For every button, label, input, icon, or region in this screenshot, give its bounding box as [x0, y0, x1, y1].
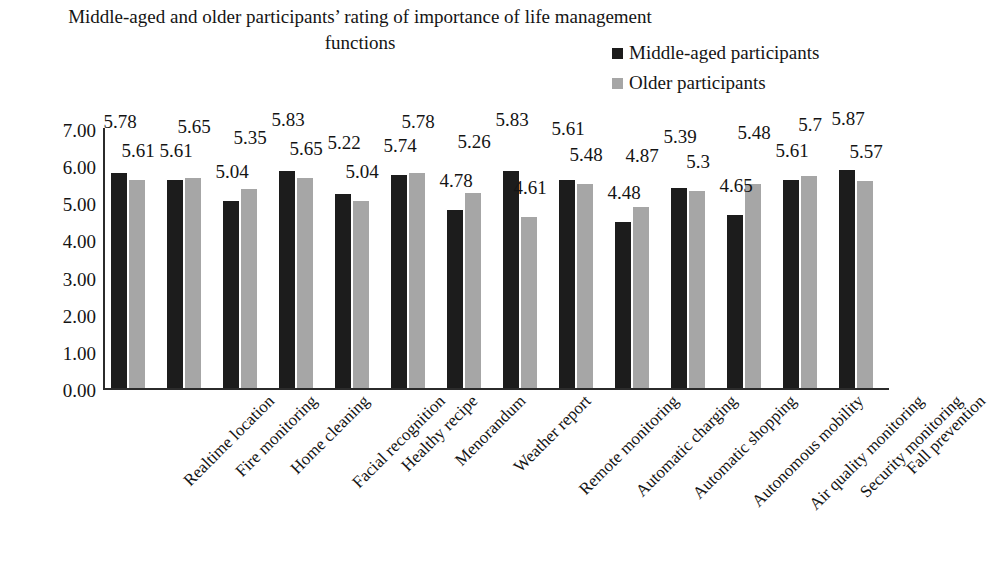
bar-group: 5.835.65 [279, 128, 315, 388]
x-axis-label: Remote monitoring [576, 392, 682, 498]
bar-value-label-older: 5.61 [117, 141, 159, 160]
bar-value-label-older: 5.65 [173, 117, 215, 136]
y-tick-label: 6.00 [40, 158, 96, 177]
bar-group: 4.484.87 [615, 128, 651, 388]
bar-older [577, 184, 593, 388]
bar-middle-aged [391, 175, 407, 388]
bar-older [633, 207, 649, 388]
bar-group: 5.615.65 [167, 128, 203, 388]
bar-group: 5.785.61 [111, 128, 147, 388]
y-tick-label: 5.00 [40, 195, 96, 214]
bar-value-label-middle-aged: 5.04 [211, 162, 253, 181]
bar-group: 5.834.61 [503, 128, 539, 388]
bar-value-label-middle-aged: 4.78 [435, 171, 477, 190]
bar-group: 5.875.57 [839, 128, 875, 388]
plot-area: 5.785.615.615.655.045.355.835.655.225.04… [103, 128, 889, 390]
bar-older [297, 178, 313, 388]
bar-middle-aged [447, 210, 463, 388]
bar-value-label-older: 5.57 [845, 142, 887, 161]
bar-value-label-middle-aged: 5.83 [267, 110, 309, 129]
bar-value-label-older: 5.3 [677, 152, 719, 171]
y-axis-line [103, 128, 105, 390]
bar-middle-aged [279, 171, 295, 388]
bar-middle-aged [727, 215, 743, 388]
y-axis-tick-labels: 7.006.005.004.003.002.001.000.00 [36, 128, 96, 390]
x-axis-category-labels: Realtime locationFire monitoringHome cle… [103, 392, 933, 582]
bar-value-label-older: 5.65 [285, 139, 327, 158]
bar-value-label-older: 5.35 [229, 128, 271, 147]
legend-item-older: Older participants [612, 68, 819, 98]
bar-value-label-older: 5.78 [397, 112, 439, 131]
legend-item-middle-aged: Middle-aged participants [612, 38, 819, 68]
bar-older [241, 189, 257, 388]
bar-value-label-middle-aged: 5.22 [323, 133, 365, 152]
y-tick-label: 0.00 [40, 381, 96, 400]
bar-older [353, 201, 369, 388]
bar-older [745, 184, 761, 388]
bar-value-label-middle-aged: 5.61 [771, 141, 813, 160]
bar-value-label-middle-aged: 4.65 [715, 176, 757, 195]
bar-value-label-middle-aged: 5.74 [379, 136, 421, 155]
bar-value-label-older: 5.26 [453, 132, 495, 151]
bar-group: 5.225.04 [335, 128, 371, 388]
bar-older [129, 180, 145, 388]
bar-group: 5.745.78 [391, 128, 427, 388]
bar-middle-aged [559, 180, 575, 388]
bar-group: 5.045.35 [223, 128, 259, 388]
bar-middle-aged [167, 180, 183, 388]
y-tick-label: 7.00 [40, 121, 96, 140]
bar-value-label-middle-aged: 5.39 [659, 127, 701, 146]
bar-older [521, 217, 537, 388]
bar-middle-aged [839, 170, 855, 388]
legend-label-older: Older participants [629, 68, 766, 98]
bar-value-label-middle-aged: 5.78 [99, 112, 141, 131]
bar-older [465, 193, 481, 388]
y-tick-label: 4.00 [40, 232, 96, 251]
chart-legend: Middle-aged participants Older participa… [612, 38, 819, 98]
bar-group: 5.615.7 [783, 128, 819, 388]
bar-middle-aged [671, 188, 687, 388]
bar-value-label-older: 4.61 [509, 178, 551, 197]
chart-title: Middle-aged and older participants’ rati… [60, 4, 660, 56]
legend-label-middle-aged: Middle-aged participants [629, 38, 819, 68]
bar-middle-aged [503, 171, 519, 388]
bar-group: 5.395.3 [671, 128, 707, 388]
bar-middle-aged [335, 194, 351, 388]
bar-value-label-middle-aged: 5.61 [155, 141, 197, 160]
bar-value-label-older: 5.7 [789, 115, 831, 134]
bar-middle-aged [223, 201, 239, 388]
bar-group: 5.615.48 [559, 128, 595, 388]
bar-older [801, 176, 817, 388]
y-tick-label: 3.00 [40, 270, 96, 289]
bar-older [689, 191, 705, 388]
bar-older [185, 178, 201, 388]
bar-middle-aged [615, 222, 631, 388]
bar-value-label-middle-aged: 5.61 [547, 119, 589, 138]
bar-value-label-middle-aged: 4.48 [603, 183, 645, 202]
y-tick-label: 2.00 [40, 307, 96, 326]
bar-value-label-older: 5.48 [565, 145, 607, 164]
bar-middle-aged [783, 180, 799, 388]
bar-value-label-middle-aged: 5.87 [827, 109, 869, 128]
x-axis-label: Automatic charging [633, 392, 741, 500]
bar-value-label-older: 4.87 [621, 146, 663, 165]
legend-swatch-older-icon [612, 78, 623, 89]
legend-swatch-middle-aged-icon [612, 48, 623, 59]
bar-older [409, 173, 425, 388]
bar-value-label-middle-aged: 5.83 [491, 110, 533, 129]
y-tick-label: 1.00 [40, 344, 96, 363]
x-axis-line [103, 388, 889, 390]
bar-value-label-older: 5.48 [733, 123, 775, 142]
bar-group: 4.785.26 [447, 128, 483, 388]
bar-older [857, 181, 873, 388]
bar-middle-aged [111, 173, 127, 388]
bar-group: 4.655.48 [727, 128, 763, 388]
bar-value-label-older: 5.04 [341, 162, 383, 181]
